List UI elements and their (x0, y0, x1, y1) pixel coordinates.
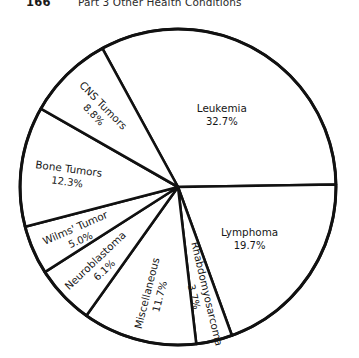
pie-slice-label-value: 19.7% (234, 240, 266, 251)
pie-slice-label-value: 32.7% (206, 116, 238, 127)
page-number: 166 (26, 0, 51, 9)
pie-chart-figure: Leukemia32.7%Lymphoma19.7%Rhabdomyosarco… (0, 14, 359, 358)
running-head-title: Part 3 Other Health Conditions (78, 0, 242, 8)
running-head: 166 Part 3 Other Health Conditions (0, 0, 359, 11)
pie-chart: Leukemia32.7%Lymphoma19.7%Rhabdomyosarco… (0, 14, 359, 358)
pie-slice-label-name: Lymphoma (221, 226, 278, 238)
pie-slice-label-name: Leukemia (197, 102, 247, 114)
